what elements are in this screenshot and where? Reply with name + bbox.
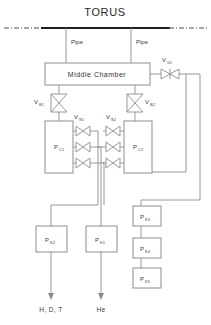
- vs1-r1-right: [83, 126, 90, 136]
- pc2-sub: C2: [138, 147, 144, 152]
- valve-v53-label: V: [162, 57, 166, 63]
- vs1-r3-left: [76, 158, 83, 168]
- valve-v53-sub: 53: [167, 60, 172, 65]
- valve-vb1-label: V: [34, 99, 38, 105]
- pc2-label: P: [133, 144, 137, 150]
- valve-vb1: V B1: [34, 85, 67, 121]
- pk2-label: P: [45, 237, 49, 243]
- v53-left-triangle: [161, 69, 170, 79]
- vs1-r2-left: [76, 142, 83, 152]
- pk1-label: P: [95, 237, 99, 243]
- pk4-label: P: [140, 246, 144, 252]
- vs1-r1-left: [76, 126, 83, 136]
- pk5-label: P: [140, 276, 144, 282]
- valve-vb2-label: V: [145, 99, 149, 105]
- pipe-label-left: Pipe: [71, 39, 84, 45]
- pk3-sub: K3: [145, 217, 151, 222]
- vs2-r1-left: [106, 126, 113, 136]
- middle-chamber: Middle Chamber: [45, 63, 150, 85]
- pk3-box: [133, 206, 161, 226]
- valve-v53: V 53: [150, 57, 186, 79]
- output-label-he: He: [96, 306, 105, 313]
- valve-vs1-sub: S1: [79, 117, 85, 122]
- vs2-r3-right: [113, 158, 120, 168]
- valve-bank-vs2: V S2: [103, 114, 124, 168]
- diagram-title: TORUS: [84, 6, 125, 18]
- valve-vb2: V B2: [127, 85, 156, 121]
- pk3-label: P: [140, 214, 144, 220]
- pipe-label-right: Pipe: [136, 39, 149, 45]
- valve-vs2-sub: S2: [111, 117, 117, 122]
- vb2-bottom-triangle: [127, 103, 143, 112]
- pk1-box: [86, 226, 117, 252]
- torus-system-diagram: TORUS Pipe Pipe Middle Chamber V 5: [0, 0, 211, 325]
- v53-right-triangle: [170, 69, 179, 79]
- hdt-arrow-head: [48, 293, 54, 300]
- pk4-sub: K4: [145, 249, 151, 254]
- pc1-label: P: [54, 144, 58, 150]
- vs1-r2-right: [83, 142, 90, 152]
- pk2-box: [36, 226, 67, 252]
- valve-bank-vs1: V S1: [73, 114, 95, 168]
- manifold-riser-c: [95, 163, 104, 196]
- pk5-box: [133, 268, 161, 288]
- manifold-riser-a: [95, 131, 98, 196]
- pump-pk1: P K1: [86, 226, 117, 252]
- output-arrows: H, D, T He: [39, 252, 105, 313]
- vs2-r2-right: [113, 142, 120, 152]
- output-label-hdt: H, D, T: [39, 306, 62, 313]
- diagram-canvas: TORUS Pipe Pipe Middle Chamber V 5: [0, 0, 211, 325]
- chamber-pc1: P C1: [45, 121, 73, 173]
- center-manifold: [95, 131, 104, 196]
- valve-vs2-label: V: [106, 114, 110, 120]
- pc1-sub: C1: [59, 147, 65, 152]
- pk4-box: [133, 238, 161, 258]
- line-to-pk2: [51, 196, 98, 226]
- he-arrow-head: [98, 293, 104, 300]
- vb1-bottom-triangle: [51, 103, 67, 112]
- pk5-sub: K5: [145, 279, 151, 284]
- pk1-sub: K1: [100, 240, 106, 245]
- pipe-group: Pipe Pipe: [66, 28, 149, 63]
- vs1-r3-right: [83, 158, 90, 168]
- vs2-r1-right: [113, 126, 120, 136]
- valve-vb2-sub: B2: [150, 102, 156, 107]
- pk2-sub: K2: [50, 240, 56, 245]
- middle-chamber-label: Middle Chamber: [68, 71, 127, 78]
- chamber-pc2: P C2: [124, 121, 152, 173]
- pump-pk2: P K2: [36, 226, 67, 252]
- valve-vs1-label: V: [74, 114, 78, 120]
- vs2-r3-left: [106, 158, 113, 168]
- right-vessel-stack: P K3 P K4 P K5: [133, 200, 161, 288]
- valve-vb1-sub: B1: [39, 102, 45, 107]
- vb1-top-triangle: [51, 94, 67, 103]
- lower-distribution: [51, 196, 104, 226]
- vs2-r2-left: [106, 142, 113, 152]
- vb2-top-triangle: [127, 94, 143, 103]
